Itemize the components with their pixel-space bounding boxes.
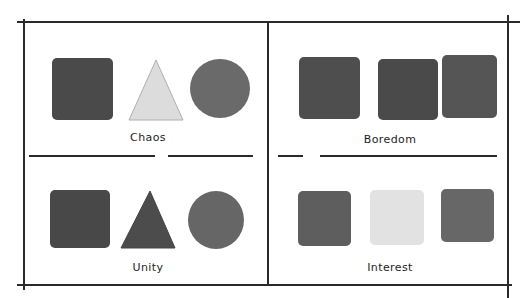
horizontal-divider-segment bbox=[168, 155, 253, 157]
horizontal-divider-segment bbox=[29, 155, 155, 157]
horizontal-divider-segment bbox=[320, 155, 497, 157]
dark-square bbox=[442, 55, 497, 118]
dark-square bbox=[299, 57, 360, 119]
panel-label-interest: Interest bbox=[367, 261, 413, 274]
panel-label-chaos: Chaos bbox=[130, 131, 166, 144]
mid-dark-circle bbox=[190, 59, 250, 118]
mid-dark-square bbox=[298, 191, 351, 246]
dark-square bbox=[50, 190, 110, 248]
dark-triangle bbox=[120, 190, 176, 249]
panel-label-unity: Unity bbox=[133, 261, 164, 274]
frame-right-line bbox=[507, 15, 509, 298]
frame-bottom-line bbox=[17, 284, 512, 286]
horizontal-divider-segment bbox=[278, 155, 303, 157]
panel-label-boredom: Boredom bbox=[364, 133, 417, 146]
dark-square bbox=[378, 59, 438, 120]
mid-dark-square bbox=[441, 189, 494, 242]
vertical-divider bbox=[267, 22, 269, 285]
mid-dark-circle bbox=[188, 191, 244, 249]
light-triangle bbox=[128, 59, 184, 121]
light-square bbox=[370, 190, 424, 245]
frame-left-line bbox=[23, 19, 25, 290]
dark-square bbox=[52, 58, 113, 120]
